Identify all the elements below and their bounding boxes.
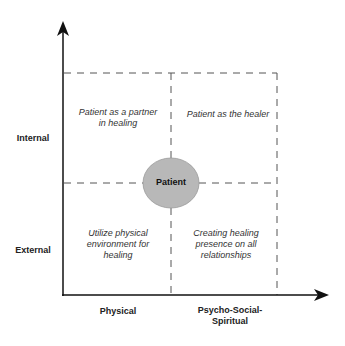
y-label-internal: Internal [8, 133, 58, 143]
quadrant-bottom-right: Creating healing presence on all relatio… [178, 228, 274, 261]
quadrant-top-right: Patient as the healer [180, 109, 276, 120]
x-label-psycho-line1: Psycho-Social- [180, 305, 280, 316]
quadrant-bottom-left-line3: healing [70, 250, 166, 261]
quadrant-top-right-line1: Patient as the healer [180, 109, 276, 120]
quadrant-bottom-left-line2: environment for [70, 239, 166, 250]
y-label-external: External [8, 245, 58, 255]
quadrant-top-left-line2: in healing [70, 118, 166, 129]
quadrant-bottom-right-line1: Creating healing [178, 228, 274, 239]
x-label-physical: Physical [88, 306, 148, 316]
quadrant-bottom-right-line3: relationships [178, 250, 274, 261]
x-label-psycho-line2: Spiritual [180, 316, 280, 327]
quadrant-top-left: Patient as a partner in healing [70, 107, 166, 129]
x-label-psycho-social-spiritual: Psycho-Social- Spiritual [180, 305, 280, 327]
quadrant-bottom-left-line1: Utilize physical [70, 228, 166, 239]
quadrant-diagram [0, 0, 345, 346]
quadrant-top-left-line1: Patient as a partner [70, 107, 166, 118]
quadrant-bottom-left: Utilize physical environment for healing [70, 228, 166, 261]
quadrant-bottom-right-line2: presence on all [178, 239, 274, 250]
center-label: Patient [143, 177, 199, 187]
